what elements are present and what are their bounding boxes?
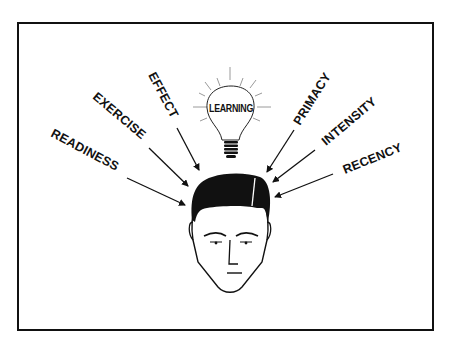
label-recency: RECENCY [341,140,405,177]
arrow-readiness [127,178,185,205]
arrow-recency [275,174,333,197]
label-effect: EFFECT [145,70,181,121]
arrow-exercise [149,148,188,186]
arrow-effect [177,128,199,170]
center-label: LEARNING [209,103,253,114]
arrow-primacy [267,130,294,172]
laws-of-learning-diagram: LEARNING READINESS EXERCISE EFFECT PRIMA… [0,0,449,346]
label-exercise: EXERCISE [90,90,149,142]
head-illustration [189,174,271,293]
lightbulb-icon: LEARNING [193,67,271,158]
label-primacy: PRIMACY [291,70,334,128]
label-intensity: INTENSITY [319,94,380,148]
label-readiness: READINESS [49,126,122,173]
arrow-intensity [273,150,315,182]
